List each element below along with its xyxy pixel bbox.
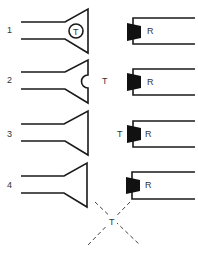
row-4: 4 R T xyxy=(7,163,195,245)
horn-2 xyxy=(21,60,88,103)
receiver-driver-3 xyxy=(127,125,141,143)
row-number-2: 2 xyxy=(7,75,12,85)
dashed-line-a xyxy=(95,202,140,245)
row-2: 2 T R xyxy=(7,60,195,103)
row-3: 3 T R xyxy=(7,111,195,155)
receiver-driver-1 xyxy=(127,23,141,41)
transmitter-label-3: T xyxy=(117,129,123,139)
receiver-label-3: R xyxy=(145,129,152,139)
horn-4 xyxy=(21,163,87,207)
receiver-label-1: R xyxy=(147,26,154,36)
receiver-box-1 xyxy=(133,18,195,44)
diagram-canvas: 1 T R 2 T R 3 T R 4 R T xyxy=(0,0,198,253)
receiver-box-4 xyxy=(132,172,195,199)
receiver-label-4: R xyxy=(145,180,152,190)
receiver-driver-4 xyxy=(126,177,140,194)
transmitter-label-2: T xyxy=(102,76,108,86)
row-number-1: 1 xyxy=(7,25,12,35)
transmitter-label-4: T xyxy=(109,217,115,227)
receiver-label-2: R xyxy=(147,77,154,87)
receiver-box-3 xyxy=(133,121,195,147)
horn-3 xyxy=(21,111,88,155)
receiver-driver-2 xyxy=(127,73,141,91)
row-number-3: 3 xyxy=(7,129,12,139)
row-number-4: 4 xyxy=(7,180,12,190)
transmitter-label-1: T xyxy=(73,27,79,37)
row-1: 1 T R xyxy=(7,9,195,53)
receiver-box-2 xyxy=(133,69,195,95)
